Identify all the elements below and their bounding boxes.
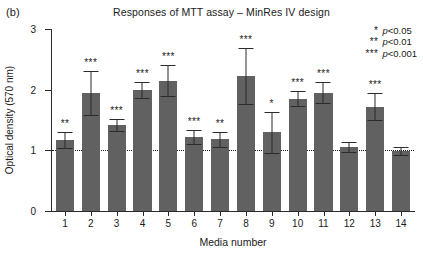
error-bar-cap-lower [290, 106, 305, 107]
x-axis-tick [65, 211, 66, 216]
y-axis-tick [45, 211, 52, 212]
y-axis-title: Optical density (570 nm) [2, 29, 16, 211]
error-bar-cap-upper [109, 119, 124, 120]
error-bar-cap-lower [368, 120, 383, 121]
error-bar-cap-lower [83, 115, 98, 116]
error-bar-cap-upper [57, 132, 72, 133]
bar-group: *** [104, 29, 130, 211]
error-bar-cap-upper [368, 93, 383, 94]
plot-area: ******************************** [52, 29, 414, 211]
significance-marker: *** [291, 78, 304, 87]
significance-marker: * [270, 99, 274, 108]
x-axis-tick-label: 4 [140, 218, 146, 229]
bar-group: *** [311, 29, 337, 211]
x-axis-tick [272, 211, 273, 216]
bar-group: * [259, 29, 285, 211]
x-axis-tick-label: 9 [269, 218, 275, 229]
bar [108, 125, 126, 211]
x-axis-title: Media number [52, 236, 414, 248]
y-axis-title-text: Optical density (570 nm) [4, 66, 15, 174]
bar-group: ** [52, 29, 78, 211]
error-bar-cap-lower [161, 96, 176, 97]
error-bar-cap-upper [161, 65, 176, 66]
error-bar-cap-lower [394, 155, 409, 156]
x-axis-tick-label: 2 [88, 218, 94, 229]
bar [314, 93, 332, 211]
bar-group: *** [130, 29, 156, 211]
bar-group: *** [181, 29, 207, 211]
error-bar [245, 48, 246, 104]
x-axis-tick [168, 211, 169, 216]
error-bar-cap-upper [342, 142, 357, 143]
error-bar [220, 132, 221, 148]
x-axis-tick-label: 12 [344, 218, 355, 229]
error-bar-cap-lower [57, 148, 72, 149]
y-axis-tick-label: 3 [30, 24, 36, 35]
bar-group: *** [285, 29, 311, 211]
bar-group: ** [207, 29, 233, 211]
bar [56, 140, 74, 211]
significance-marker: ** [216, 119, 225, 128]
error-bar [375, 93, 376, 120]
error-bar-cap-lower [187, 144, 202, 145]
significance-marker: *** [136, 69, 149, 78]
error-bar [194, 130, 195, 145]
x-axis-tick-label: 5 [166, 218, 172, 229]
bar [366, 107, 384, 211]
x-axis-tick-label: 11 [318, 218, 328, 229]
error-bar [142, 82, 143, 98]
error-bar-cap-lower [316, 103, 331, 104]
significance-marker: *** [317, 69, 330, 78]
error-bar [116, 119, 117, 131]
bar [340, 147, 358, 211]
error-bar-cap-lower [135, 98, 150, 99]
bar-group: *** [155, 29, 181, 211]
x-axis-tick [91, 211, 92, 216]
significance-marker: *** [188, 117, 201, 126]
error-bar-cap-lower [238, 104, 253, 105]
error-bar [271, 112, 272, 153]
error-bar-cap-lower [342, 152, 357, 153]
bar-group [388, 29, 414, 211]
significance-marker: *** [369, 80, 382, 89]
error-bar [297, 91, 298, 106]
x-axis-tick-label: 14 [396, 218, 407, 229]
x-axis-tick [298, 211, 299, 216]
y-axis-tick-label: 1 [30, 145, 36, 156]
x-axis-tick [220, 211, 221, 216]
y-axis-tick [45, 90, 52, 91]
bar-group: *** [78, 29, 104, 211]
bar-group [336, 29, 362, 211]
error-bar-cap-upper [83, 71, 98, 72]
x-axis-tick [401, 211, 402, 216]
error-bar-cap-upper [264, 112, 279, 113]
x-axis-tick-label: 7 [217, 218, 223, 229]
x-axis-tick-label: 8 [243, 218, 249, 229]
error-bar [168, 65, 169, 95]
error-bar [349, 142, 350, 152]
x-axis-tick [117, 211, 118, 216]
x-axis-tick-label: 6 [191, 218, 197, 229]
y-axis-tick-label: 2 [30, 84, 36, 95]
chart-title: Responses of MTT assay – MinRes IV desig… [0, 6, 423, 18]
error-bar [64, 132, 65, 148]
error-bar-cap-upper [187, 130, 202, 131]
error-bar-cap-lower [264, 153, 279, 154]
x-axis-tick-label: 10 [292, 218, 303, 229]
error-bar [401, 147, 402, 155]
error-bar-cap-upper [135, 82, 150, 83]
error-bar-cap-upper [238, 48, 253, 49]
bar [211, 139, 229, 211]
bar [133, 90, 151, 211]
figure-panel: (b) Responses of MTT assay – MinRes IV d… [0, 0, 423, 258]
error-bar-cap-upper [316, 82, 331, 83]
significance-marker: *** [162, 52, 175, 61]
bar-group: *** [233, 29, 259, 211]
x-axis-tick-label: 13 [370, 218, 381, 229]
significance-marker: *** [239, 35, 252, 44]
x-axis-tick [375, 211, 376, 216]
significance-marker: *** [84, 58, 97, 67]
y-axis-tick [45, 29, 52, 30]
bar [289, 99, 307, 211]
y-axis-tick [45, 150, 52, 151]
